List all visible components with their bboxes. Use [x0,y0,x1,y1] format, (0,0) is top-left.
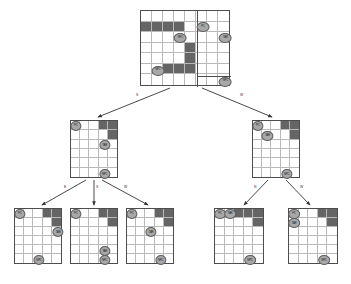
token-target[interactable]: TAR [288,218,300,228]
grid-cell [163,32,174,43]
grid-cell [24,218,33,227]
obstacle-cell [141,22,152,33]
grid-cell [207,43,218,54]
token-npc[interactable]: NPC [219,77,232,87]
obstacle-cell [52,218,61,227]
grid-cell [145,209,154,218]
grid-cell [33,209,42,218]
grid-cell [174,53,185,64]
grid-cell [207,53,218,64]
grid-cell [43,236,52,245]
grid-cell [215,227,225,236]
grid-cell [244,245,254,254]
obstacle-cell [163,22,174,33]
grid-cell [174,74,185,85]
grid-cell [299,209,309,218]
grid-cell [33,236,42,245]
grid-state-leaf-5[interactable]: PCTARNPC [288,208,338,264]
grid-cell [174,43,185,54]
grid-state-leaf-2[interactable]: PCTARNPC [70,208,118,264]
token-pc[interactable]: PC [196,22,209,32]
grid-cell [164,245,173,254]
obstacle-cell [152,22,163,33]
grid-cell [244,227,254,236]
grid-cell [99,158,108,167]
token-npc[interactable]: NPC [281,169,292,179]
grid-cell [299,245,309,254]
obstacle-cell [99,121,108,130]
grid-cell [15,218,24,227]
obstacle-cell [290,130,299,139]
grid-state-leaf-3[interactable]: PCTARNPC [126,208,174,264]
grid-cell [155,236,164,245]
grid-cell [299,236,309,245]
grid-cell [225,236,235,245]
grid-cell [225,227,235,236]
grid-cell [80,218,89,227]
grid-cell [174,11,185,22]
action-label-edge-left-leaf1: E [64,186,66,189]
token-npc[interactable]: NPC [174,33,187,43]
obstacle-cell [244,209,254,218]
grid-cell [271,158,280,167]
grid-cell [289,245,299,254]
grid-cell [89,254,98,263]
grid-cell [80,236,89,245]
grid-cell [141,32,152,43]
grid-cell [253,168,262,177]
grid-cell [207,32,218,43]
grid-cell [43,245,52,254]
grid-cell [308,254,318,263]
grid-cell [80,130,89,139]
token-target[interactable]: TAR [224,209,236,219]
grid-cell [89,168,98,177]
grid-cell [290,158,299,167]
grid-state-mid-left[interactable]: PCTARNPC [70,120,118,178]
grid-cell [262,168,271,177]
token-npc[interactable]: NPC [318,255,330,265]
grid-state-leaf-4[interactable]: PCTARNPC [214,208,264,264]
grid-cell [234,245,244,254]
grid-cell [89,209,98,218]
grid-cell [327,245,337,254]
grid-cell [155,218,164,227]
grid-state-mid-right[interactable]: PCTARNPC [252,120,300,178]
grid-state-root[interactable]: PCTARNPCNPCNPC [140,10,230,86]
grid-cell [318,218,328,227]
grid-cell [308,218,318,227]
grid-state-leaf-1[interactable]: PCTARNPC [14,208,62,264]
grid-cell [289,236,299,245]
grid-cell [207,64,218,75]
grid-cell [71,218,80,227]
grid-cell [136,254,145,263]
grid-cell [185,11,196,22]
grid-cell [327,236,337,245]
grid-cell [24,227,33,236]
token-npc[interactable]: NPC [155,255,166,265]
grid-cell [99,236,108,245]
obstacle-cell [108,209,117,218]
token-target[interactable]: TAR [219,33,232,43]
token-npc[interactable]: NPC [33,255,44,265]
grid-cell [271,168,280,177]
grid-cell [253,130,262,139]
token-npc[interactable]: NPC [99,255,110,265]
grid-cell [215,245,225,254]
grid-cell [80,158,89,167]
grid-cell [152,74,163,85]
token-npc[interactable]: NPC [99,169,110,179]
action-label-edge-root-left: S [136,94,138,97]
grid-cell [127,218,136,227]
grid-cell [299,218,309,227]
grid-cell [33,227,42,236]
grid-cell [80,209,89,218]
grid-cell [318,227,328,236]
token-npc[interactable]: NPC [244,255,256,265]
token-npc[interactable]: NPC [151,66,164,76]
grid-cell [163,11,174,22]
grid-cell [80,149,89,158]
grid-cell [99,218,108,227]
grid-cell [308,227,318,236]
grid-cell [24,236,33,245]
grid-cell [234,227,244,236]
